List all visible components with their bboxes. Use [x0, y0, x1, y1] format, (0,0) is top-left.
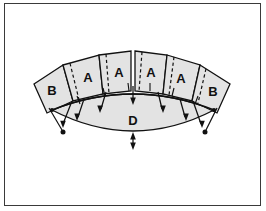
- segment-a-3-label: A: [146, 65, 156, 80]
- segment-a-3: A: [135, 51, 167, 94]
- segment-b-right-label: B: [208, 84, 217, 99]
- segment-a-2-label: A: [114, 65, 124, 80]
- figure-frame: B A A A A B: [0, 0, 266, 211]
- segment-b-left-label: B: [47, 83, 56, 98]
- arrow-bottom-double: [130, 132, 136, 150]
- segment-a-4-label: A: [176, 71, 186, 86]
- segment-a-2: A: [99, 51, 131, 94]
- left-lower-dot: [61, 130, 66, 135]
- region-d-label: D: [128, 113, 137, 128]
- segment-a-1-label: A: [83, 70, 93, 85]
- right-lower-dot: [203, 130, 208, 135]
- diagram-canvas: B A A A A B: [0, 0, 266, 211]
